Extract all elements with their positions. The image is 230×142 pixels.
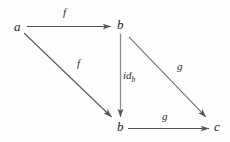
edge-label-id-b-subscript: b	[132, 75, 136, 84]
node-c: c	[214, 120, 220, 133]
arrow-a-to-b-bottom	[24, 33, 112, 117]
edge-label-id-b-base: id	[123, 69, 132, 81]
edge-label-f-top: f	[63, 7, 66, 18]
diagram-arrows-layer	[0, 0, 230, 142]
edge-label-id-b: idb	[123, 70, 135, 84]
node-a: a	[14, 20, 21, 33]
commutative-diagram: a b b c f f idb g g	[0, 0, 230, 142]
node-b-top: b	[117, 18, 124, 31]
arrow-b-top-to-c	[129, 37, 206, 117]
node-b-bottom: b	[117, 120, 124, 133]
edge-label-g-bottom: g	[162, 111, 168, 122]
edge-label-f-diagonal: f	[77, 58, 80, 69]
edge-label-g-diagonal: g	[177, 61, 183, 72]
